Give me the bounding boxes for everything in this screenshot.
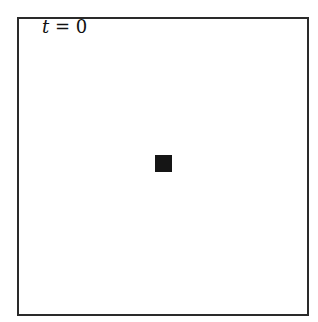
filled-cell (155, 155, 172, 172)
time-value: 0 (76, 16, 87, 37)
equals-sign: = (49, 16, 76, 37)
time-label: t = 0 (42, 18, 87, 36)
